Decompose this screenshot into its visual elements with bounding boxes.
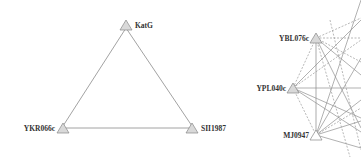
triangle-node-icon [120,20,132,30]
triangle-network-edges [63,28,192,128]
network-diagrams: KatG YKR066c SII1987 YBL076c YPL040c MJ0… [0,0,361,157]
node-label: SII1987 [201,124,226,133]
node-label: YKR066c [24,124,56,133]
edge-katg-ykr066c [63,28,126,126]
node-label: KatG [135,21,153,30]
node-mj0947: MJ0947 [283,130,322,140]
edge-katg-sii1987 [126,28,192,126]
node-label: MJ0947 [283,131,309,140]
node-sii1987: SII1987 [186,123,226,133]
node-ybl076c: YBL076c [279,33,322,43]
node-ypl040c: YPL040c [256,83,299,93]
node-ykr066c: YKR066c [24,123,69,133]
node-label: YBL076c [279,34,310,43]
node-label: YPL040c [256,84,286,93]
node-katg: KatG [120,20,153,30]
